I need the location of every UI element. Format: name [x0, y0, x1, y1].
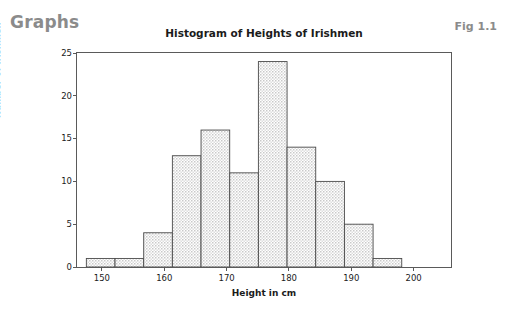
plot-inner: 0510152025150160170180190200	[77, 53, 451, 267]
histogram-bar	[115, 258, 144, 267]
y-tick-mark	[73, 138, 77, 139]
x-axis-label: Height in cm	[76, 288, 452, 298]
y-tick-mark	[73, 95, 77, 96]
x-tick-mark	[351, 267, 352, 271]
x-tick-label: 170	[209, 273, 245, 283]
x-tick-mark	[101, 267, 102, 271]
histogram-bar	[373, 258, 402, 267]
x-tick-label: 150	[84, 273, 120, 283]
x-tick-mark	[226, 267, 227, 271]
y-axis-label: Number of Irishmen	[0, 22, 2, 118]
histogram-bar	[316, 181, 345, 267]
histogram-bars	[77, 53, 451, 267]
histogram-bar	[258, 62, 287, 267]
plot-area: 0510152025150160170180190200	[76, 52, 452, 268]
chart-title: Histogram of Heights of Irishmen	[76, 27, 452, 39]
x-tick-label: 180	[271, 273, 307, 283]
x-tick-mark	[164, 267, 165, 271]
y-tick-mark	[73, 181, 77, 182]
x-tick-mark	[288, 267, 289, 271]
histogram-bar	[201, 130, 230, 267]
histogram-bar	[86, 258, 115, 267]
histogram-bar	[344, 224, 373, 267]
histogram-bar	[230, 173, 259, 267]
histogram-bar	[172, 156, 201, 267]
page-root: Graphs Fig 1.1 Histogram of Heights of I…	[0, 0, 509, 311]
x-tick-label: 190	[333, 273, 369, 283]
x-tick-label: 200	[396, 273, 432, 283]
x-tick-label: 160	[146, 273, 182, 283]
histogram-bar	[144, 233, 173, 267]
histogram-figure: Histogram of Heights of Irishmen Number …	[0, 0, 509, 311]
x-tick-mark	[413, 267, 414, 271]
histogram-bar	[287, 147, 316, 267]
y-tick-mark	[73, 267, 77, 268]
y-tick-mark	[73, 53, 77, 54]
y-tick-mark	[73, 224, 77, 225]
